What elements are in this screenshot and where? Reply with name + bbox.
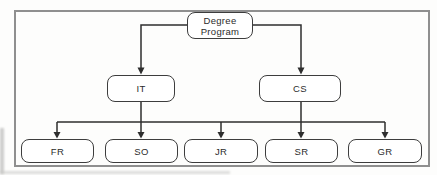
arrowhead-cs-icon	[298, 68, 305, 75]
node-degree-program: Degree Program	[187, 12, 253, 39]
node-cs: CS	[259, 75, 341, 102]
diagram-canvas: Degree Program IT CS FR SO JR SR GR	[0, 0, 437, 175]
scan-artifact	[0, 171, 230, 174]
arrowhead-jr-icon	[218, 132, 225, 139]
node-label: SR	[295, 146, 309, 157]
node-fr: FR	[21, 139, 94, 163]
arrowhead-sr-icon	[298, 132, 305, 139]
edge-root-to-it	[141, 25, 187, 68]
arrowhead-so-icon	[138, 132, 145, 139]
scan-artifact	[0, 128, 4, 174]
edge-root-to-cs	[253, 25, 301, 68]
node-label: GR	[378, 146, 393, 157]
node-label: SO	[134, 146, 148, 157]
node-label: Degree Program	[191, 15, 249, 37]
node-jr: JR	[184, 139, 258, 163]
node-label: CS	[293, 83, 307, 94]
node-so: SO	[105, 139, 178, 163]
node-label: JR	[215, 146, 227, 157]
node-sr: SR	[265, 139, 338, 163]
node-it: IT	[107, 75, 175, 102]
arrowhead-fr-icon	[54, 132, 61, 139]
node-label: FR	[51, 146, 64, 157]
node-label: IT	[136, 83, 145, 94]
node-gr: GR	[348, 139, 422, 163]
arrowhead-it-icon	[138, 68, 145, 75]
arrowhead-gr-icon	[382, 132, 389, 139]
